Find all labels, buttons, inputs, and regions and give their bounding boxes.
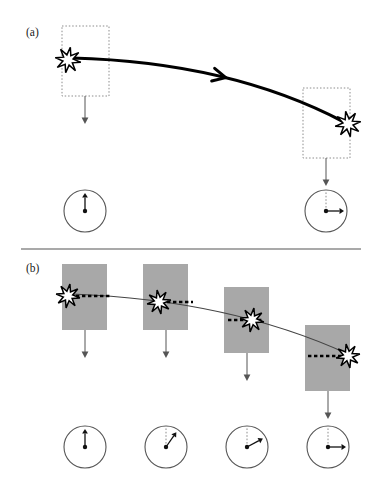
dial-b4-hub [326, 445, 330, 449]
dial-a1-hub [83, 209, 87, 213]
figure-background [0, 0, 384, 485]
dial-b3-hub [245, 445, 249, 449]
dial-a2-hub [324, 209, 328, 213]
dial-b1-hub [83, 445, 87, 449]
physics-figure: (a) (b) [0, 0, 384, 485]
gray-box-b2 [143, 264, 188, 330]
dial-b2-hub [164, 445, 168, 449]
panel-b-label: (b) [26, 262, 40, 275]
figure-root: (a) (b) [0, 0, 384, 485]
panel-a-label: (a) [26, 26, 39, 39]
